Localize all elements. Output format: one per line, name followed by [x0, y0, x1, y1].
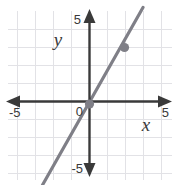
y-axis-max-tick-label: 5 — [74, 12, 81, 27]
x-axis-max-tick-label: 5 — [162, 105, 169, 120]
line-point-marker — [120, 43, 129, 52]
y-axis-up-arrowhead — [84, 9, 96, 23]
origin-label: 0 — [76, 104, 83, 119]
origin-point-marker — [85, 99, 94, 108]
x-axis-min-tick-label: -5 — [9, 105, 21, 120]
y-axis-down-arrowhead — [84, 163, 96, 177]
y-axis-label: y — [52, 29, 63, 50]
coordinate-plane-figure: y x 5 -5 -5 5 0 — [0, 0, 178, 185]
x-axis-label: x — [141, 114, 151, 135]
graph-canvas: y x 5 -5 -5 5 0 — [0, 0, 178, 185]
y-axis-min-tick-label: -5 — [71, 161, 83, 176]
